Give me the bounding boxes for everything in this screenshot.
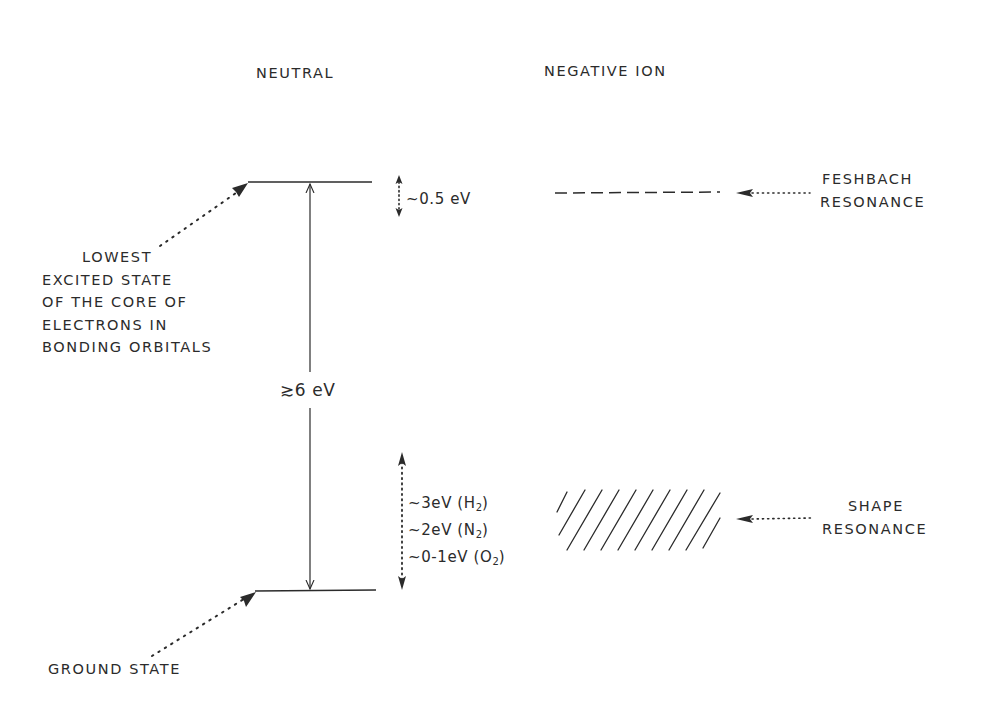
shape-energy-o2: ~0-1eV (O2) — [408, 546, 505, 573]
feshbach-offset-label: ~0.5 eV — [406, 192, 471, 207]
shape-pointer — [736, 515, 812, 523]
ground-state-level-line — [255, 590, 376, 591]
neutral-header: NEUTRAL — [256, 66, 334, 81]
shape-label-line2: RESONANCE — [822, 518, 927, 541]
shape-energy-h2: ~3eV (H2) — [408, 492, 505, 519]
negative-ion-header: NEGATIVE ION — [544, 64, 667, 79]
feshbach-offset-arrow — [396, 175, 403, 217]
shape-label-line1: SHAPE — [822, 495, 927, 518]
excited-state-label-line: LOWEST — [42, 246, 212, 269]
shape-energy-list: ~3eV (H2) ~2eV (N2) ~0-1eV (O2) — [408, 492, 505, 573]
excited-state-label-line: EXCITED STATE — [42, 269, 212, 292]
feshbach-pointer — [736, 189, 810, 197]
shape-energy-n2: ~2eV (N2) — [408, 519, 505, 546]
shape-range-arrow — [398, 452, 406, 590]
excited-state-label-line: ELECTRONS IN — [42, 314, 212, 337]
feshbach-resonance-label: FESHBACH RESONANCE — [820, 168, 925, 213]
feshbach-resonance-level — [555, 192, 720, 193]
gap-energy-label: ≳6 eV — [280, 382, 336, 399]
shape-resonance-band — [557, 490, 720, 550]
excited-state-label-line: OF THE CORE OF — [42, 291, 212, 314]
ground-state-pointer — [152, 592, 256, 656]
shape-resonance-label: SHAPE RESONANCE — [822, 495, 927, 540]
feshbach-label-line2: RESONANCE — [820, 191, 925, 214]
feshbach-label-line1: FESHBACH — [820, 168, 925, 191]
excited-state-label: LOWEST EXCITED STATE OF THE CORE OF ELEC… — [42, 246, 212, 359]
excited-state-pointer — [160, 183, 248, 246]
ground-state-label: GROUND STATE — [48, 662, 181, 677]
excited-state-label-line: BONDING ORBITALS — [42, 336, 212, 359]
